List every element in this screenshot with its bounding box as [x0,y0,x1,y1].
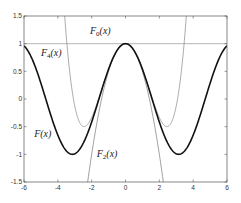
x-tick-label: -2 [89,184,95,191]
x-tick-label: -4 [55,184,61,191]
y-tick-label: 1 [18,40,22,47]
y-tick-label: 0 [18,95,22,102]
x-tick-label: 0 [124,184,128,191]
plot-area [24,16,227,182]
x-tick-label: 2 [158,184,162,191]
x-tick-label: 6 [225,184,229,191]
y-tick-label: -1 [16,151,22,158]
x-tick-label: 4 [191,184,195,191]
y-tick-label: 1.5 [13,12,22,19]
y-tick-label: 0.5 [13,68,22,75]
y-tick-label: -0.5 [11,123,23,130]
x-tick-label: -6 [21,184,27,191]
curve-label-fx: F(x) [33,128,52,140]
y-tick-label: -1.5 [11,178,23,185]
taylor-series-chart: -6-4-20246 -1.5-1-0.500.511.5 F0(x)F4(x)… [0,0,241,203]
